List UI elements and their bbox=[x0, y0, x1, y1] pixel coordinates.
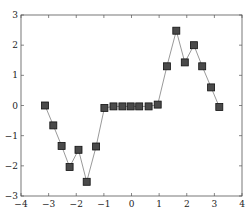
data-point-marker bbox=[154, 101, 161, 108]
x-tick-label: 4 bbox=[239, 199, 245, 209]
y-axis-tick-labels: −3−2−10123 bbox=[5, 10, 19, 201]
data-point-marker bbox=[127, 103, 134, 110]
data-point-marker bbox=[136, 103, 143, 110]
x-tick-label: 0 bbox=[129, 199, 135, 209]
x-tick-label: 2 bbox=[184, 199, 190, 209]
y-tick-label: −3 bbox=[5, 191, 19, 201]
x-axis-tick-labels: −4−3−2−101234 bbox=[14, 199, 245, 209]
data-point-marker bbox=[181, 59, 188, 66]
y-tick-label: −1 bbox=[5, 131, 18, 141]
data-point-marker bbox=[58, 142, 65, 149]
y-tick-label: −2 bbox=[5, 161, 18, 171]
x-tick-label: 3 bbox=[212, 199, 218, 209]
data-point-marker bbox=[119, 103, 126, 110]
data-point-marker bbox=[208, 84, 215, 91]
line-chart: −4−3−2−101234 −3−2−10123 bbox=[0, 0, 250, 217]
x-tick-label: −3 bbox=[42, 199, 56, 209]
data-point-marker bbox=[110, 103, 117, 110]
data-point-marker bbox=[145, 103, 152, 110]
data-point-marker bbox=[163, 63, 170, 70]
data-point-marker bbox=[42, 102, 49, 109]
data-point-marker bbox=[216, 104, 223, 111]
data-point-marker bbox=[75, 146, 82, 153]
data-point-marker bbox=[173, 27, 180, 34]
y-tick-label: 2 bbox=[12, 40, 18, 50]
x-tick-label: −1 bbox=[97, 199, 110, 209]
y-tick-label: 3 bbox=[12, 10, 18, 20]
data-point-marker bbox=[66, 164, 73, 171]
data-point-marker bbox=[199, 63, 206, 70]
data-point-marker bbox=[83, 178, 90, 185]
data-point-marker bbox=[101, 104, 108, 111]
y-tick-label: 1 bbox=[12, 70, 18, 80]
data-point-marker bbox=[50, 122, 57, 129]
data-point-marker bbox=[190, 42, 197, 49]
x-tick-label: 1 bbox=[156, 199, 162, 209]
data-point-marker bbox=[93, 143, 100, 150]
x-tick-label: −2 bbox=[70, 199, 83, 209]
y-tick-label: 0 bbox=[12, 101, 18, 111]
